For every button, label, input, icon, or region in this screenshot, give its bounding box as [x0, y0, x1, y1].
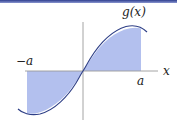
odd-function-diagram: g(x) −a a x: [0, 0, 177, 123]
right-bound-label: a: [137, 74, 144, 88]
left-bound-label: −a: [16, 54, 33, 68]
shaded-area-negative: [27, 71, 83, 114]
function-label: g(x): [122, 5, 146, 19]
shaded-area-positive: [83, 28, 141, 71]
x-axis-label: x: [163, 64, 170, 78]
